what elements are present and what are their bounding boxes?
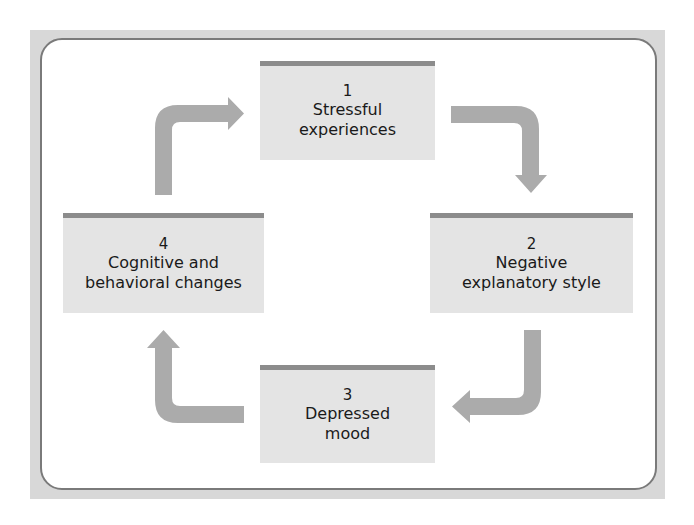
node-label-line1: Stressful [313,100,382,120]
node-label-line2: explanatory style [462,273,601,293]
arrow-1-to-2-icon [451,106,547,193]
node-3-depressed-mood: 3 Depressed mood [260,365,435,463]
node-2-negative-explanatory-style: 2 Negative explanatory style [430,213,633,313]
node-number: 2 [527,235,537,253]
node-label-line1: Depressed [305,404,390,424]
arrow-4-to-1-icon [155,97,244,195]
node-number: 4 [159,235,169,253]
node-label-line2: experiences [299,120,396,140]
node-label-line2: mood [325,424,370,444]
node-label-line2: behavioral changes [85,273,242,293]
node-4-cognitive-behavioral-changes: 4 Cognitive and behavioral changes [63,213,264,313]
node-label-line1: Negative [496,253,568,273]
arrow-2-to-3-icon [452,330,541,423]
arrow-3-to-4-icon [147,330,244,423]
node-number: 3 [343,386,353,404]
node-number: 1 [343,82,353,100]
node-label-line1: Cognitive and [108,253,219,273]
node-1-stressful-experiences: 1 Stressful experiences [260,61,435,160]
